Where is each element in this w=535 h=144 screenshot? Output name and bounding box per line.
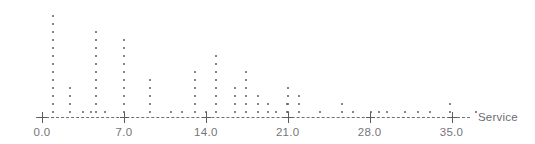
dotplot-dot [52,71,54,73]
dotplot-dot [429,111,431,113]
dotplot-dot [267,111,269,113]
dotplot-dot [149,111,151,113]
dotplot-dot [341,103,343,105]
dotplot-dot [123,95,125,97]
dotplot-dot [245,95,247,97]
dotplot-dot [149,87,151,89]
dotplot-dot [215,95,217,97]
dotplot-dot [215,55,217,57]
dotplot-dot [52,39,54,41]
dotplot-plot-area [0,0,535,118]
dotplot-dot [194,71,196,73]
dotplot-dot [449,103,451,105]
dotplot-dot [298,95,300,97]
dotplot-dot [234,111,236,113]
dotplot-dot [287,87,289,89]
dotplot-dot [215,103,217,105]
dotplot-dot [95,31,97,33]
dotplot-dot [123,55,125,57]
dotplot-dot [194,95,196,97]
dotplot-dot [69,95,71,97]
dotplot-dot [386,111,388,113]
dotplot-dot [298,103,300,105]
dotplot-dot [404,111,406,113]
dotplot-dot [52,95,54,97]
dotplot-dot [149,103,151,105]
dotplot-dot [149,79,151,81]
dotplot-figure: 0.07.014.021.028.035.0 Service [0,0,535,144]
x-axis-tick-label: 0.0 [12,126,72,138]
dotplot-dot [69,87,71,89]
dotplot-dot [267,103,269,105]
dotplot-dot [95,111,97,113]
x-axis-tick-label: 28.0 [340,126,400,138]
x-axis-tick [38,112,47,123]
x-axis-tick [448,112,457,123]
dotplot-dot [245,87,247,89]
dotplot-dot [245,71,247,73]
x-axis-tick-label: 21.0 [258,126,318,138]
x-axis-tick [120,112,129,123]
dotplot-dot [352,111,354,113]
dotplot-dot [319,111,321,113]
dotplot-dot [95,63,97,65]
dotplot-dot [341,111,343,113]
dotplot-dot [123,87,125,89]
dotplot-dot [234,103,236,105]
dotplot-dot [417,111,419,113]
dotplot-dot [95,95,97,97]
dotplot-dot [194,87,196,89]
dotplot-dot [234,87,236,89]
x-axis-line [36,117,470,118]
dotplot-dot [90,111,92,113]
dotplot-dot [257,111,259,113]
dotplot-dot [52,103,54,105]
x-axis-tick [284,112,293,123]
dotplot-dot [52,47,54,49]
dotplot-dot [149,95,151,97]
dotplot-dot [215,63,217,65]
dotplot-dot [52,111,54,113]
x-axis-tick [202,112,211,123]
dotplot-dot [123,71,125,73]
dotplot-dot [123,103,125,105]
dotplot-dot [123,79,125,81]
x-axis-title: Service [478,111,518,123]
dotplot-dot [257,95,259,97]
dotplot-dot [215,71,217,73]
x-axis-tick-label: 35.0 [422,126,482,138]
dotplot-dot [104,111,106,113]
x-axis-tick-label: 14.0 [176,126,236,138]
x-axis-tick [366,112,375,123]
dotplot-dot [298,111,300,113]
dotplot-dot [95,55,97,57]
dotplot-dot [287,103,289,105]
dotplot-dot [123,47,125,49]
dotplot-dot [95,39,97,41]
dotplot-dot [215,79,217,81]
dotplot-dot [194,111,196,113]
x-axis-tick-label: 7.0 [94,126,154,138]
dotplot-dot [69,103,71,105]
dotplot-dot [181,111,183,113]
dotplot-dot [95,87,97,89]
dotplot-dot [194,79,196,81]
dotplot-dot [95,71,97,73]
dotplot-dot [475,111,477,113]
dotplot-dot [52,55,54,57]
dotplot-dot [234,95,236,97]
dotplot-dot [123,63,125,65]
dotplot-dot [82,111,84,113]
dotplot-dot [215,111,217,113]
dotplot-dot [52,15,54,17]
dotplot-dot [95,103,97,105]
dotplot-dot [245,79,247,81]
dotplot-dot [378,111,380,113]
dotplot-dot [52,23,54,25]
dotplot-dot [123,39,125,41]
dotplot-dot [95,79,97,81]
dotplot-dot [215,87,217,89]
dotplot-dot [275,111,277,113]
dotplot-dot [245,111,247,113]
dotplot-dot [287,95,289,97]
